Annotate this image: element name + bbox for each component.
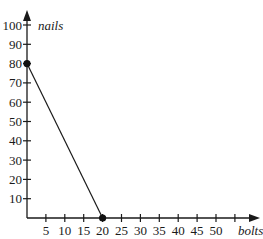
data-point-icon [99, 214, 106, 221]
x-tick-label: 15 [77, 223, 90, 238]
x-tick-label: 10 [58, 223, 71, 238]
y-axis-label: nails [38, 18, 63, 33]
x-tick-label: 45 [191, 223, 204, 238]
y-tick-label: 100 [3, 18, 23, 33]
x-tick-label: 35 [153, 223, 166, 238]
x-axis-arrow-icon [249, 214, 260, 222]
y-tick-label: 70 [9, 75, 22, 90]
data-series [23, 60, 106, 222]
x-tick-label: 50 [210, 223, 223, 238]
y-tick-label: 20 [9, 172, 22, 187]
y-tick-label: 30 [9, 153, 22, 168]
y-axis-arrow-icon [23, 10, 31, 21]
y-tick-label: 80 [9, 56, 22, 71]
x-tick-label: 5 [43, 223, 50, 238]
x-tick-label: 25 [115, 223, 128, 238]
x-axis: 5101520253035404550 bolts [27, 214, 263, 238]
y-axis: 102030405060708090100 nails [3, 10, 64, 218]
y-tick-label: 10 [9, 191, 22, 206]
x-tick-label: 30 [134, 223, 147, 238]
x-tick-label: 40 [172, 223, 185, 238]
y-tick-label: 60 [9, 95, 22, 110]
data-point-icon [23, 60, 30, 67]
y-tick-label: 50 [9, 114, 22, 129]
y-tick-label: 90 [9, 37, 22, 52]
data-line [27, 64, 103, 218]
x-axis-label: bolts [238, 223, 263, 238]
y-tick-label: 40 [9, 133, 22, 148]
x-tick-label: 20 [96, 223, 109, 238]
chart: 102030405060708090100 nails 510152025303… [0, 0, 263, 239]
